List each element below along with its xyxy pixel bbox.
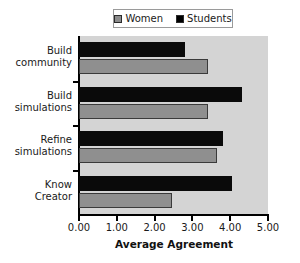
x-axis-tick-label-2: 2.00 [138, 222, 172, 233]
legend-entry-students: Students [176, 14, 232, 24]
students-swatch-icon [176, 15, 184, 23]
chart-legend: Women Students [113, 9, 233, 28]
x-axis-tick-3 [191, 216, 193, 221]
y-axis-label-1: Buildsimulations [0, 90, 72, 114]
x-axis-tick-1 [116, 216, 118, 221]
y-axis-tick-2 [73, 125, 79, 127]
legend-label-women: Women [125, 14, 163, 24]
bar-students-1 [79, 87, 242, 102]
bar-students-0 [79, 42, 185, 57]
x-axis-tick-4 [229, 216, 231, 221]
legend-entry-women: Women [114, 14, 163, 24]
bar-women-1 [79, 104, 208, 119]
y-axis-label-2: Refinesimulations [0, 134, 72, 158]
bar-students-2 [79, 131, 223, 146]
y-axis-label-3: KnowCreator [0, 179, 72, 203]
y-axis-tick-3 [73, 170, 79, 172]
x-axis-tick-label-3: 3.00 [175, 222, 209, 233]
y-axis-label-0: Buildcommunity [0, 45, 72, 69]
bar-students-3 [79, 176, 232, 191]
x-axis-tick-label-5: 5.00 [251, 222, 285, 233]
x-axis-tick-label-0: 0.00 [62, 222, 96, 233]
x-axis-tick-5 [267, 216, 269, 221]
bar-women-0 [79, 59, 208, 74]
women-swatch-icon [114, 15, 122, 23]
y-axis-tick-1 [73, 81, 79, 83]
x-axis-tick-0 [78, 216, 80, 221]
x-axis-tick-2 [154, 216, 156, 221]
bar-women-2 [79, 148, 217, 163]
bar-chart: Women Students BuildcommunityBuildsimula… [0, 0, 300, 263]
x-axis-tick-label-4: 4.00 [213, 222, 247, 233]
x-axis-title: Average Agreement [79, 238, 269, 250]
x-axis-line [78, 214, 269, 216]
legend-label-students: Students [187, 14, 232, 24]
bar-women-3 [79, 193, 172, 208]
x-axis-tick-label-1: 1.00 [100, 222, 134, 233]
